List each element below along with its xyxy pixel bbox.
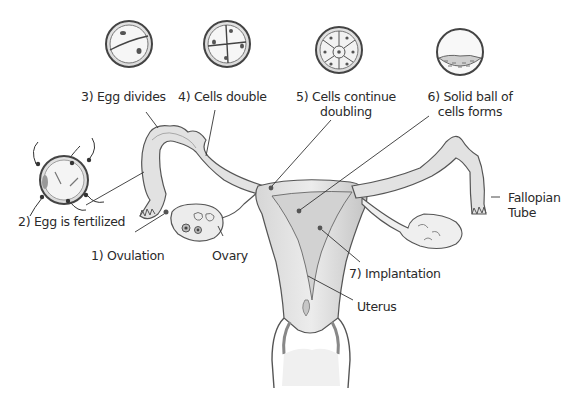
left-ovary bbox=[164, 188, 263, 241]
fertilized-egg-icon bbox=[30, 138, 104, 216]
uterus bbox=[256, 180, 367, 388]
label-ovulation: 1) Ovulation bbox=[91, 248, 164, 263]
label-implantation: 7) Implantation bbox=[349, 266, 441, 281]
label-solid-ball-line1: 6) Solid ball of bbox=[420, 89, 520, 104]
reproductive-diagram bbox=[0, 0, 574, 401]
label-cells-continue-line1: 5) Cells continue bbox=[291, 89, 401, 104]
label-solid-ball-line2: cells forms bbox=[420, 104, 520, 119]
stage-4-four-cell-icon bbox=[204, 21, 250, 67]
label-fallopian-line1: Fallopian bbox=[508, 190, 561, 205]
stage-6-blastocyst-icon bbox=[437, 29, 483, 75]
label-ovary: Ovary bbox=[212, 248, 248, 263]
stage-5-morula-icon bbox=[316, 27, 362, 73]
label-fallopian-line2: Tube bbox=[508, 205, 536, 220]
right-ovary bbox=[362, 198, 462, 249]
stage-3-two-cell-icon bbox=[106, 21, 152, 67]
label-uterus: Uterus bbox=[357, 299, 397, 314]
label-egg-fertilized: 2) Egg is fertilized bbox=[18, 214, 125, 229]
right-fallopian-tube bbox=[352, 136, 486, 214]
label-cells-continue-line2: doubling bbox=[291, 104, 401, 119]
label-egg-divides: 3) Egg divides bbox=[81, 89, 166, 104]
label-cells-double: 4) Cells double bbox=[178, 89, 267, 104]
